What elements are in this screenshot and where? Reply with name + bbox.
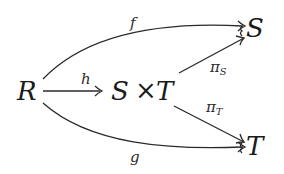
- label-g: g: [130, 148, 140, 166]
- object-T-right: T: [156, 76, 175, 106]
- arrow-h: [43, 86, 102, 96]
- times-symbol: ×: [135, 75, 157, 105]
- object-T: T: [246, 131, 265, 161]
- label-pi-T-subscript: T: [216, 106, 224, 117]
- label-h: h: [81, 70, 91, 88]
- label-f: f: [129, 14, 138, 32]
- object-S-left: S: [111, 76, 129, 106]
- object-R: R: [16, 76, 37, 106]
- commutative-diagram: R S × T S T f h g πS πT: [0, 0, 284, 174]
- label-pi-T: πT: [205, 98, 224, 117]
- object-S: S: [246, 13, 264, 43]
- label-pi-S: πS: [209, 58, 227, 77]
- label-pi-S-subscript: S: [220, 66, 227, 77]
